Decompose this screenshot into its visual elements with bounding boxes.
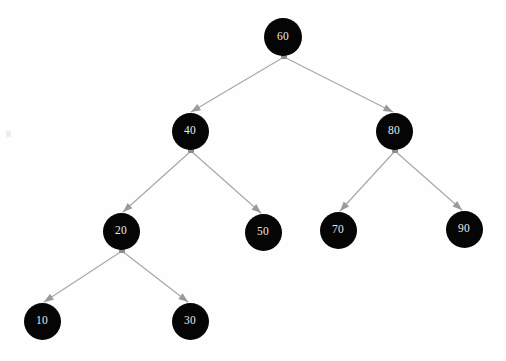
- edge-arrowhead-icon: [178, 293, 188, 302]
- scan-artifact: [6, 131, 11, 137]
- tree-node-30[interactable]: 30: [172, 303, 209, 340]
- tree-edge: [284, 57, 393, 112]
- tree-node-label: 20: [115, 225, 127, 237]
- tree-node-10[interactable]: 10: [24, 303, 61, 340]
- tree-node-label: 80: [388, 125, 400, 137]
- tree-node-label: 90: [458, 223, 470, 235]
- tree-node-label: 10: [36, 315, 48, 327]
- tree-node-60[interactable]: 60: [264, 18, 302, 56]
- tree-edge: [191, 151, 261, 213]
- tree-node-90[interactable]: 90: [446, 211, 483, 248]
- tree-node-label: 50: [257, 226, 269, 238]
- tree-edge: [395, 151, 462, 210]
- tree-edge: [191, 57, 284, 112]
- tree-node-label: 70: [332, 224, 344, 236]
- tree-node-20[interactable]: 20: [103, 213, 140, 250]
- edge-arrowhead-icon: [191, 104, 201, 112]
- tree-node-label: 60: [277, 31, 289, 43]
- binary-tree-diagram: 604080205070901030: [0, 0, 506, 361]
- tree-node-70[interactable]: 70: [320, 212, 357, 249]
- edge-arrowhead-icon: [44, 294, 54, 302]
- tree-edge: [122, 251, 188, 302]
- tree-node-40[interactable]: 40: [172, 113, 209, 150]
- tree-node-80[interactable]: 80: [376, 113, 413, 150]
- tree-edge: [340, 151, 395, 211]
- tree-edge: [44, 251, 122, 302]
- tree-node-50[interactable]: 50: [245, 214, 282, 251]
- tree-edge-layer: [0, 0, 506, 361]
- tree-node-label: 40: [184, 125, 196, 137]
- tree-node-label: 30: [184, 315, 196, 327]
- edge-arrowhead-icon: [383, 105, 393, 112]
- tree-edge: [123, 151, 191, 212]
